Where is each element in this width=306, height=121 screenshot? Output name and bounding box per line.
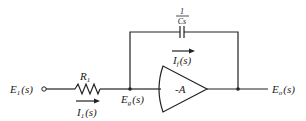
input-voltage-label: E1(s)	[9, 83, 33, 97]
circuit-diagram: E1(s) R1 I1(s) Eg(s) If(s) 1 Cs -A Eo(s)	[0, 0, 306, 121]
resistor-r1	[75, 84, 100, 94]
feedback-current-label: If(s)	[172, 54, 192, 68]
feedback-wire-right	[184, 32, 238, 89]
resistor-label: R1	[79, 70, 90, 84]
output-junction	[236, 87, 240, 91]
node-voltage-label: Eg(s)	[120, 93, 144, 107]
svg-text:Cs: Cs	[178, 17, 186, 26]
amplifier-gain-label: -A	[175, 83, 186, 95]
output-voltage-label: Eo(s)	[271, 83, 295, 97]
input-current-arrow	[76, 99, 100, 104]
feedback-current-arrow	[172, 49, 195, 54]
input-current-label: I1(s)	[76, 106, 97, 120]
input-terminal	[42, 87, 46, 91]
svg-text:1: 1	[180, 7, 184, 16]
capacitor-impedance-label: 1 Cs	[176, 7, 189, 26]
